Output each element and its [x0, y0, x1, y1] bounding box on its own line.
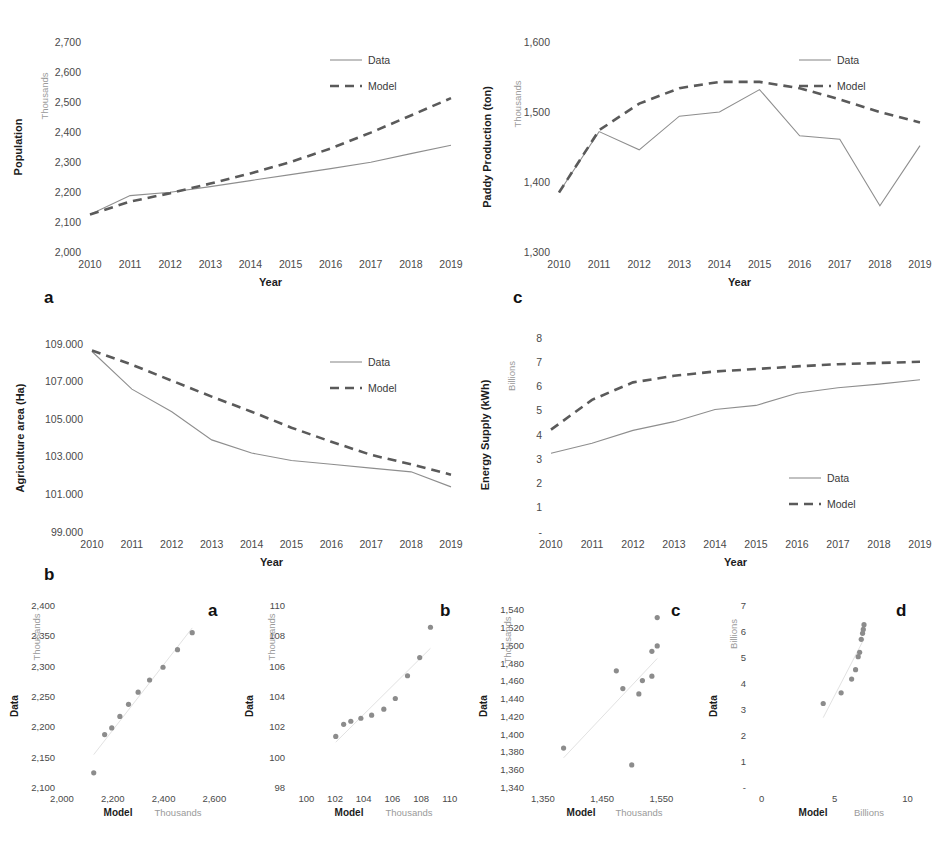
svg-text:Thousands: Thousands	[512, 80, 523, 127]
svg-text:Billions: Billions	[854, 807, 884, 818]
svg-text:-: -	[539, 526, 543, 538]
svg-text:Year: Year	[728, 276, 752, 288]
svg-text:Model: Model	[335, 807, 364, 818]
svg-text:1,500: 1,500	[524, 106, 550, 118]
svg-text:1,360: 1,360	[500, 764, 524, 775]
svg-text:Data: Data	[368, 356, 390, 368]
svg-text:2016: 2016	[319, 258, 343, 270]
svg-text:1,400: 1,400	[500, 729, 524, 740]
svg-text:107.000: 107.000	[45, 375, 83, 387]
svg-text:1,380: 1,380	[500, 746, 524, 757]
svg-text:4: 4	[536, 429, 542, 441]
agriculture-scatter-chart: 98100102104106108110100102104106108110Mo…	[237, 592, 469, 832]
paddy-timeseries-chart: 1,3001,4001,5001,60020102011201220132014…	[469, 14, 938, 310]
svg-text:1: 1	[741, 756, 746, 767]
svg-text:2,400: 2,400	[152, 793, 176, 804]
svg-text:2012: 2012	[160, 538, 184, 550]
svg-text:Billions: Billions	[506, 361, 517, 391]
svg-text:2,200: 2,200	[55, 186, 81, 198]
panel-letter-scatter-c: c	[671, 601, 680, 621]
svg-text:2018: 2018	[868, 258, 892, 270]
svg-text:Data: Data	[368, 54, 390, 66]
svg-text:2010: 2010	[80, 538, 104, 550]
svg-text:99.000: 99.000	[51, 526, 83, 538]
svg-text:2011: 2011	[119, 258, 142, 270]
svg-text:2,500: 2,500	[55, 96, 81, 108]
svg-text:10: 10	[902, 793, 913, 804]
svg-text:1,400: 1,400	[524, 176, 550, 188]
svg-text:7: 7	[536, 356, 542, 368]
svg-text:110: 110	[270, 600, 285, 611]
panel-letter-b: b	[44, 565, 54, 585]
svg-text:2013: 2013	[662, 538, 686, 550]
svg-text:Model: Model	[368, 382, 397, 394]
svg-text:108: 108	[413, 793, 429, 804]
panel-energy-timeseries: -123456782010201120122013201420152016201…	[469, 310, 938, 590]
svg-text:2017: 2017	[360, 538, 384, 550]
svg-text:2: 2	[536, 477, 542, 489]
figure-caption	[0, 835, 938, 849]
svg-text:Data: Data	[244, 695, 255, 717]
panel-population-timeseries: 2,0002,1002,2002,3002,4002,5002,6002,700…	[0, 14, 469, 310]
svg-text:8: 8	[536, 332, 542, 344]
svg-text:2,100: 2,100	[55, 216, 81, 228]
svg-text:Model: Model	[799, 807, 828, 818]
svg-text:2,300: 2,300	[31, 661, 55, 672]
figure-container: 2,0002,1002,2002,3002,4002,5002,6002,700…	[0, 0, 938, 849]
svg-text:Billions: Billions	[728, 619, 739, 649]
svg-text:2,100: 2,100	[31, 782, 55, 793]
svg-text:Model: Model	[827, 498, 856, 510]
svg-text:1,420: 1,420	[500, 711, 524, 722]
svg-text:1,440: 1,440	[500, 693, 524, 704]
svg-text:2019: 2019	[908, 538, 932, 550]
svg-text:101.000: 101.000	[45, 488, 83, 500]
panel-letter-a: a	[44, 288, 53, 308]
panel-paddy-scatter: 1,3401,3601,3801,4001,4201,4401,4601,480…	[469, 592, 701, 832]
svg-text:110: 110	[442, 793, 457, 804]
panel-letter-scatter-a: a	[208, 601, 217, 621]
svg-text:1,340: 1,340	[500, 782, 524, 793]
panel-population-scatter: 2,1002,1502,2002,2502,3002,3502,4002,000…	[0, 592, 237, 832]
svg-text:7: 7	[741, 600, 746, 611]
svg-text:2019: 2019	[908, 258, 932, 270]
svg-text:2014: 2014	[703, 538, 727, 550]
svg-text:Thousands: Thousands	[39, 72, 50, 119]
svg-text:Agriculture area (Ha): Agriculture area (Ha)	[14, 383, 26, 492]
svg-text:2: 2	[741, 730, 746, 741]
svg-text:2,300: 2,300	[55, 156, 81, 168]
svg-text:5: 5	[741, 652, 746, 663]
svg-text:Thousands: Thousands	[502, 616, 513, 663]
svg-text:109.000: 109.000	[45, 338, 83, 350]
svg-text:1: 1	[536, 501, 542, 513]
svg-text:2017: 2017	[359, 258, 383, 270]
svg-text:2,200: 2,200	[101, 793, 125, 804]
svg-text:2016: 2016	[320, 538, 344, 550]
svg-text:Thousands: Thousands	[31, 613, 42, 660]
svg-text:2017: 2017	[828, 258, 852, 270]
svg-text:2015: 2015	[744, 538, 768, 550]
svg-text:Data: Data	[837, 54, 859, 66]
svg-text:Thousands: Thousands	[615, 807, 662, 818]
agriculture-timeseries-chart: 99.000101.000103.000105.000107.000109.00…	[0, 310, 469, 590]
svg-text:106: 106	[269, 661, 285, 672]
svg-text:2,150: 2,150	[31, 752, 55, 763]
svg-text:102: 102	[327, 793, 343, 804]
svg-text:Data: Data	[9, 695, 20, 717]
svg-text:Energy Supply (kWh): Energy Supply (kWh)	[479, 379, 491, 490]
svg-text:Data: Data	[478, 695, 489, 717]
svg-text:100: 100	[269, 752, 285, 763]
svg-text:6: 6	[741, 626, 746, 637]
svg-text:Year: Year	[260, 556, 284, 568]
svg-text:2,250: 2,250	[31, 691, 55, 702]
svg-text:2018: 2018	[399, 258, 423, 270]
svg-text:2018: 2018	[399, 538, 423, 550]
svg-text:2013: 2013	[668, 258, 692, 270]
svg-text:2018: 2018	[867, 538, 891, 550]
top-cropped-text	[0, 0, 938, 12]
svg-text:6: 6	[536, 380, 542, 392]
svg-text:98: 98	[274, 782, 285, 793]
svg-text:2,000: 2,000	[55, 246, 81, 258]
svg-text:2015: 2015	[279, 258, 303, 270]
svg-text:Data: Data	[827, 472, 849, 484]
svg-text:Model: Model	[104, 807, 133, 818]
